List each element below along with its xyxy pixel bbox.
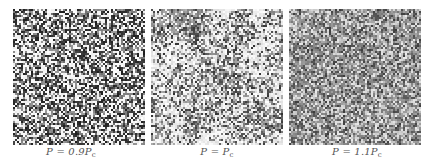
noise-image-pc [151,9,283,145]
caption-text: P = P [200,146,229,157]
noise-image-0.9pc [13,9,145,145]
panel-p-0.9pc [13,9,145,145]
caption-subscript: c [92,151,96,159]
caption-text: P = 1.1P [332,146,378,157]
noise-image-1.1pc [289,9,421,145]
panel-p-pc [151,9,283,145]
caption-subscript: c [230,151,234,159]
panel-p-1.1pc [289,9,421,145]
caption-p-1.1pc: P = 1.1Pc [291,146,423,161]
caption-p-0.9pc: P = 0.9Pc [5,146,137,161]
caption-p-pc: P = Pc [151,146,283,161]
caption-subscript: c [378,151,382,159]
caption-text: P = 0.9P [46,146,92,157]
